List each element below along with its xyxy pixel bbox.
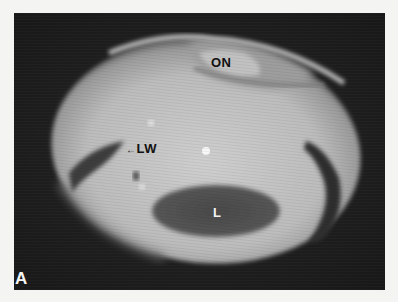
- mri-scan-panel: ON ←LW L A: [14, 13, 385, 290]
- scan-image: [14, 13, 385, 290]
- panel-letter: A: [15, 270, 27, 287]
- label-optic-nerve: ON: [211, 56, 232, 69]
- label-lesion: L: [213, 206, 221, 219]
- lateral-wall-annotation: ←LW: [126, 142, 157, 155]
- arrow-left-icon: ←: [126, 144, 137, 155]
- label-lateral-wall: LW: [137, 141, 158, 156]
